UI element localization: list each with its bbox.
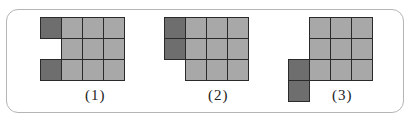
light-square — [206, 17, 228, 39]
light-square — [330, 59, 352, 81]
light-square — [227, 38, 249, 60]
light-square — [309, 59, 331, 81]
light-square — [82, 38, 104, 60]
dark-square — [288, 80, 310, 102]
light-square — [351, 59, 373, 81]
light-square — [185, 17, 207, 39]
light-square — [227, 59, 249, 81]
light-square — [103, 38, 125, 60]
light-square — [185, 59, 207, 81]
light-square — [351, 38, 373, 60]
dark-square — [40, 17, 62, 39]
light-square — [330, 17, 352, 39]
light-square — [82, 59, 104, 81]
dark-square — [164, 38, 186, 60]
light-square — [61, 17, 83, 39]
light-square — [309, 38, 331, 60]
light-square — [206, 59, 228, 81]
light-square — [330, 38, 352, 60]
figure-3-caption: (3) — [332, 87, 353, 104]
light-square — [185, 38, 207, 60]
dark-square — [288, 59, 310, 81]
light-square — [103, 59, 125, 81]
light-square — [103, 17, 125, 39]
figure-2-caption: (2) — [208, 87, 229, 104]
light-square — [227, 17, 249, 39]
dark-square — [164, 17, 186, 39]
light-square — [309, 17, 331, 39]
light-square — [351, 17, 373, 39]
light-square — [61, 59, 83, 81]
light-square — [61, 38, 83, 60]
figure-1-caption: (1) — [85, 87, 106, 104]
dark-square — [40, 59, 62, 81]
light-square — [206, 38, 228, 60]
light-square — [82, 17, 104, 39]
